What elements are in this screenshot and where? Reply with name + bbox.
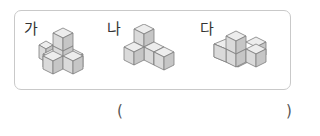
cube [63, 51, 83, 74]
cube-figure-na [120, 24, 192, 80]
figure-label-na: 나 [107, 22, 121, 37]
cube [154, 47, 174, 70]
cube [124, 42, 144, 65]
cube [246, 44, 266, 67]
answer-open-paren: ( [117, 104, 123, 119]
cube [43, 51, 63, 74]
cube-figure-ga [36, 26, 96, 82]
answer-blank[interactable] [130, 100, 280, 122]
cube-figure-da [212, 30, 284, 80]
answer-close-paren: ) [286, 104, 292, 119]
